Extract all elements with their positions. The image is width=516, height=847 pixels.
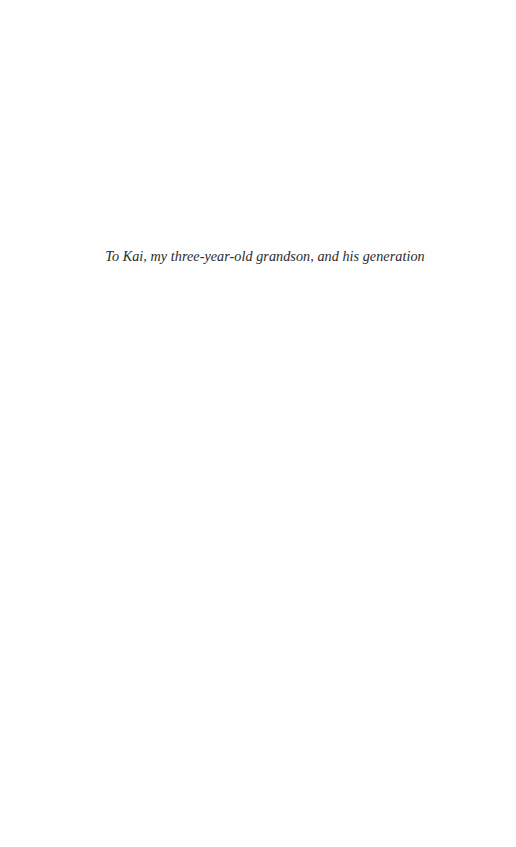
book-page: To Kai, my three-year-old grandson, and … (0, 0, 516, 847)
dedication-text: To Kai, my three-year-old grandson, and … (0, 248, 516, 265)
